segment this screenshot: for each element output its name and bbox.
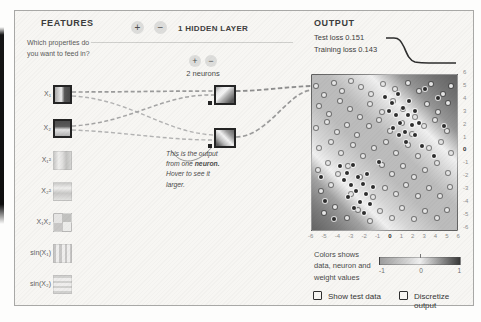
axis-tick: -5 [321, 233, 326, 239]
heatmap-y-axis: 6543210-1-2-3-4-5-6 [463, 69, 468, 230]
show-test-data-checkbox[interactable] [313, 291, 322, 300]
axis-tick: 1 [463, 134, 468, 140]
data-point-light [358, 115, 362, 119]
test-loss-value: 0.151 [345, 33, 364, 42]
feature-label-x2: X₂ [15, 124, 51, 131]
data-point-dark [417, 121, 421, 125]
data-point-dark [342, 178, 346, 182]
axis-tick: 4 [463, 95, 468, 101]
add-layer-button[interactable]: + [131, 21, 144, 34]
data-point-dark [377, 160, 381, 164]
neuron-1-bias[interactable] [208, 101, 212, 105]
data-point-dark [345, 171, 349, 175]
data-point-light [427, 186, 431, 190]
data-point-light [367, 124, 371, 128]
feature-box-x2[interactable] [53, 119, 72, 138]
data-point-dark [413, 133, 417, 137]
test-loss-label: Test loss [314, 33, 343, 42]
data-point-light [412, 175, 416, 179]
data-point-light [340, 89, 344, 93]
data-point-dark [361, 182, 365, 186]
data-point-dark [401, 106, 405, 110]
loss-curve [386, 38, 456, 63]
data-point-light [423, 209, 427, 213]
data-point-dark [397, 133, 401, 137]
axis-tick: -3 [463, 185, 468, 191]
axis-tick: -6 [463, 224, 468, 230]
axis-tick: 0 [388, 233, 391, 239]
callout-line2-bold: neuron. [195, 160, 220, 167]
axis-tick: -1 [463, 159, 468, 165]
data-point-dark [323, 199, 327, 203]
data-point-dark [354, 189, 358, 193]
data-point-light [384, 140, 388, 144]
hidden-neuron-2[interactable] [214, 128, 236, 148]
training-loss: Training loss 0.143 [314, 45, 377, 54]
data-point-dark [371, 185, 375, 189]
weight-line-n1-output[interactable] [236, 86, 311, 91]
feature-box-x1sq[interactable] [53, 151, 72, 170]
data-point-dark [413, 109, 417, 113]
data-point-light [406, 81, 410, 85]
hidden-neuron-1[interactable] [214, 85, 236, 105]
weight-line-x1-n1[interactable] [72, 91, 214, 92]
data-point-light [394, 192, 398, 196]
axis-tick: 2 [411, 233, 414, 239]
feature-box-sinx2[interactable] [53, 275, 72, 294]
axis-tick: 5 [463, 82, 468, 88]
data-point-light [400, 206, 404, 210]
axis-tick: -6 [308, 233, 313, 239]
data-point-dark [394, 113, 398, 117]
data-point-light [322, 93, 326, 97]
features-title: FEATURES [41, 18, 94, 28]
feature-box-x1x2[interactable] [53, 213, 72, 232]
heatmap [311, 74, 458, 231]
data-point-light [425, 102, 429, 106]
data-point-light [380, 110, 384, 114]
data-point-light [446, 171, 450, 175]
feature-box-x1[interactable] [53, 85, 72, 104]
add-neuron-button[interactable]: + [189, 55, 201, 67]
discretize-output-checkbox[interactable] [399, 291, 408, 300]
feature-box-sinx1[interactable] [53, 244, 72, 263]
data-point-light [355, 133, 359, 137]
data-point-dark [442, 124, 446, 128]
data-point-dark [391, 126, 395, 130]
data-point-light [329, 140, 333, 144]
weight-line-x2-n1[interactable] [72, 95, 214, 126]
data-point-light [346, 164, 350, 168]
data-point-light [417, 89, 421, 93]
feature-box-x2sq[interactable] [53, 182, 72, 201]
discretize-output-label: Discretize output [414, 292, 473, 310]
axis-tick: -2 [463, 172, 468, 178]
data-point-dark [420, 144, 424, 148]
data-point-light [329, 183, 333, 187]
training-loss-value: 0.143 [358, 45, 377, 54]
feature-label-x1: X₁ [15, 90, 51, 97]
remove-layer-button[interactable]: − [154, 21, 167, 34]
data-point-dark [387, 109, 391, 113]
data-point-light [401, 164, 405, 168]
data-point-light [416, 194, 420, 198]
layer-divider [91, 42, 293, 43]
weight-line-n2-output[interactable] [236, 90, 311, 137]
data-point-light [351, 143, 355, 147]
data-point-dark [406, 113, 410, 117]
training-loss-label: Training loss [314, 45, 356, 54]
feature-label-sinx2: sin(X₂) [15, 280, 51, 287]
axis-tick: 3 [422, 233, 425, 239]
weight-line-x1-n2[interactable] [72, 96, 214, 135]
data-point-light [381, 82, 385, 86]
data-point-light [326, 161, 330, 165]
data-point-light [345, 123, 349, 127]
data-point-dark [403, 130, 407, 134]
data-point-light [413, 115, 417, 119]
feature-label-sinx1: sin(X₁) [15, 249, 51, 256]
neuron-2-bias[interactable] [208, 144, 212, 148]
weight-line-x2-n2[interactable] [72, 130, 214, 140]
data-point-light [368, 219, 372, 223]
remove-neuron-button[interactable]: − [205, 55, 217, 67]
features-intro: Which properties do you want to feed in? [27, 37, 91, 59]
data-point-light [393, 87, 397, 91]
data-point-dark [404, 140, 408, 144]
